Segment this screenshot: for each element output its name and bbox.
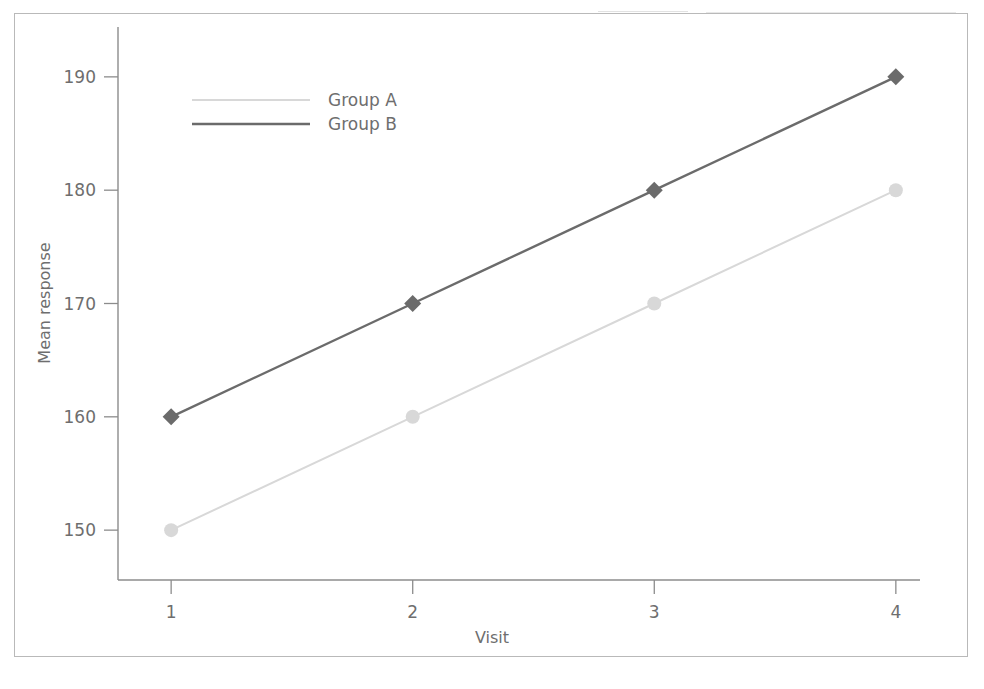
data-point-marker-diamond <box>404 295 421 312</box>
legend-item-label: Group B <box>328 114 397 134</box>
y-axis-ticks: 150160170180190 <box>64 67 118 540</box>
data-point-marker-diamond <box>887 68 904 85</box>
data-point-marker-diamond <box>646 182 663 199</box>
series-line <box>171 77 896 417</box>
y-tick-label: 160 <box>64 407 96 427</box>
chart-plot-area: 150160170180190 1234 Group AGroup B Visi… <box>0 0 984 689</box>
x-tick-label: 1 <box>166 602 177 622</box>
x-tick-label: 2 <box>407 602 418 622</box>
y-tick-label: 170 <box>64 294 96 314</box>
y-tick-label: 150 <box>64 520 96 540</box>
y-tick-label: 190 <box>64 67 96 87</box>
legend-item-label: Group A <box>328 90 397 110</box>
x-tick-label: 4 <box>890 602 901 622</box>
figure-page: 150160170180190 1234 Group AGroup B Visi… <box>0 0 984 689</box>
chart-legend: Group AGroup B <box>192 90 397 134</box>
x-axis-title: Visit <box>475 628 509 647</box>
x-axis-ticks: 1234 <box>166 580 902 622</box>
data-point-marker-circle <box>647 297 661 311</box>
data-series-group <box>163 68 905 537</box>
data-point-marker-circle <box>406 410 420 424</box>
data-point-marker-diamond <box>163 408 180 425</box>
data-point-marker-circle <box>164 523 178 537</box>
line-chart: 150160170180190 1234 Group AGroup B Visi… <box>0 0 984 689</box>
series-line <box>171 190 896 530</box>
x-tick-label: 3 <box>649 602 660 622</box>
data-series <box>163 68 905 425</box>
data-point-marker-circle <box>889 183 903 197</box>
y-tick-label: 180 <box>64 180 96 200</box>
y-axis-title: Mean response <box>35 242 54 363</box>
data-series <box>164 183 903 537</box>
